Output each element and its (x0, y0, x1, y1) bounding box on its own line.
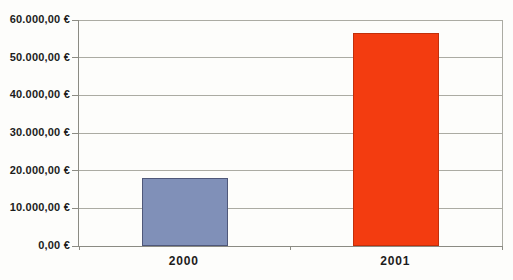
x-axis-tick (290, 246, 291, 250)
y-axis-tick (72, 95, 79, 96)
gridline-60000 (79, 20, 502, 21)
plot-area (78, 20, 503, 247)
y-tick-label: 30.000,00 € (0, 126, 70, 138)
x-tick-label-2000: 2000 (139, 254, 229, 268)
y-tick-label: 60.000,00 € (0, 13, 70, 25)
bar-2001 (353, 33, 439, 246)
y-tick-label: 10.000,00 € (0, 201, 70, 213)
y-axis-tick (72, 20, 79, 21)
y-tick-label: 50.000,00 € (0, 51, 70, 63)
bar-chart: 0,00 €10.000,00 €20.000,00 €30.000,00 €4… (0, 0, 513, 280)
x-axis-tick (79, 246, 80, 250)
y-tick-label: 0,00 € (0, 239, 70, 251)
bar-2000 (142, 178, 228, 246)
y-axis-tick (72, 208, 79, 209)
y-axis-tick (72, 133, 79, 134)
x-tick-label-2001: 2001 (350, 254, 440, 268)
y-axis-tick (72, 170, 79, 171)
y-tick-label: 40.000,00 € (0, 88, 70, 100)
y-tick-label: 20.000,00 € (0, 164, 70, 176)
y-axis-tick (72, 57, 79, 58)
x-axis-tick (502, 246, 503, 250)
